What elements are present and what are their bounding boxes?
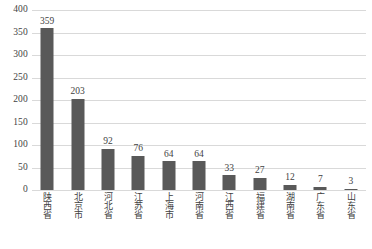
bar — [223, 175, 236, 190]
bar-slot: 359 — [32, 10, 62, 190]
gridline — [32, 190, 366, 191]
y-axis-tick-label: 50 — [18, 163, 28, 173]
bar-value-label: 64 — [194, 150, 204, 160]
x-axis-tick-label: 江苏省 — [133, 192, 144, 219]
x-axis-tick-label: 福建省 — [254, 192, 265, 219]
bar-value-label: 359 — [40, 17, 54, 27]
y-axis-tick-label: 250 — [13, 73, 28, 83]
bar — [41, 28, 54, 190]
bar-value-label: 203 — [70, 87, 84, 97]
y-axis-tick-labels: 050100150200250300350400 — [0, 10, 28, 190]
bar-value-label: 27 — [255, 166, 265, 176]
bar-value-label: 76 — [134, 144, 144, 154]
x-axis-tick-labels: 陕西省北京市河北省江苏省上海市河南省江西省福建省湖南省广东省山东省 — [32, 192, 366, 238]
bar-slot: 7 — [305, 10, 335, 190]
x-axis-tick-label: 陕西省 — [42, 192, 53, 219]
x-axis-tick-label: 江西省 — [224, 192, 235, 219]
bar — [284, 185, 297, 190]
bar-slot: 12 — [275, 10, 305, 190]
x-axis-tick-label: 广东省 — [315, 192, 326, 219]
bar — [253, 178, 266, 190]
bar-value-label: 33 — [225, 164, 235, 174]
bar-slot: 33 — [214, 10, 244, 190]
bar-slot: 64 — [153, 10, 183, 190]
y-axis-tick-label: 300 — [13, 50, 28, 60]
bar-slot: 64 — [184, 10, 214, 190]
bar-slot: 3 — [336, 10, 366, 190]
bar — [132, 156, 145, 190]
x-axis-tick-label: 上海市 — [163, 192, 174, 219]
x-axis-tick-label: 湖南省 — [285, 192, 296, 219]
bar-slot: 92 — [93, 10, 123, 190]
bar-chart: 050100150200250300350400 359203927664643… — [0, 0, 372, 249]
bars-layer: 3592039276646433271273 — [32, 10, 366, 190]
x-axis-tick-label: 河北省 — [102, 192, 113, 219]
y-axis-tick-label: 350 — [13, 28, 28, 38]
x-axis-tick-label: 河南省 — [194, 192, 205, 219]
bar-value-label: 92 — [103, 137, 113, 147]
bar-slot: 203 — [62, 10, 92, 190]
bar-slot: 27 — [245, 10, 275, 190]
bar — [192, 161, 205, 190]
y-axis-tick-label: 200 — [13, 95, 28, 105]
bar — [101, 149, 114, 190]
x-axis-tick-label: 山东省 — [345, 192, 356, 219]
bar-value-label: 12 — [285, 173, 295, 183]
bar-value-label: 3 — [348, 177, 353, 187]
bar-value-label: 7 — [318, 175, 323, 185]
bar-value-label: 64 — [164, 150, 174, 160]
bar-slot: 76 — [123, 10, 153, 190]
y-axis-tick-label: 100 — [13, 140, 28, 150]
y-axis-tick-label: 0 — [23, 185, 28, 195]
bar — [344, 189, 357, 190]
y-axis-tick-label: 400 — [13, 5, 28, 15]
bar — [162, 161, 175, 190]
bar — [314, 187, 327, 190]
y-axis-tick-label: 150 — [13, 118, 28, 128]
x-axis-tick-label: 北京市 — [72, 192, 83, 219]
bar — [71, 99, 84, 190]
